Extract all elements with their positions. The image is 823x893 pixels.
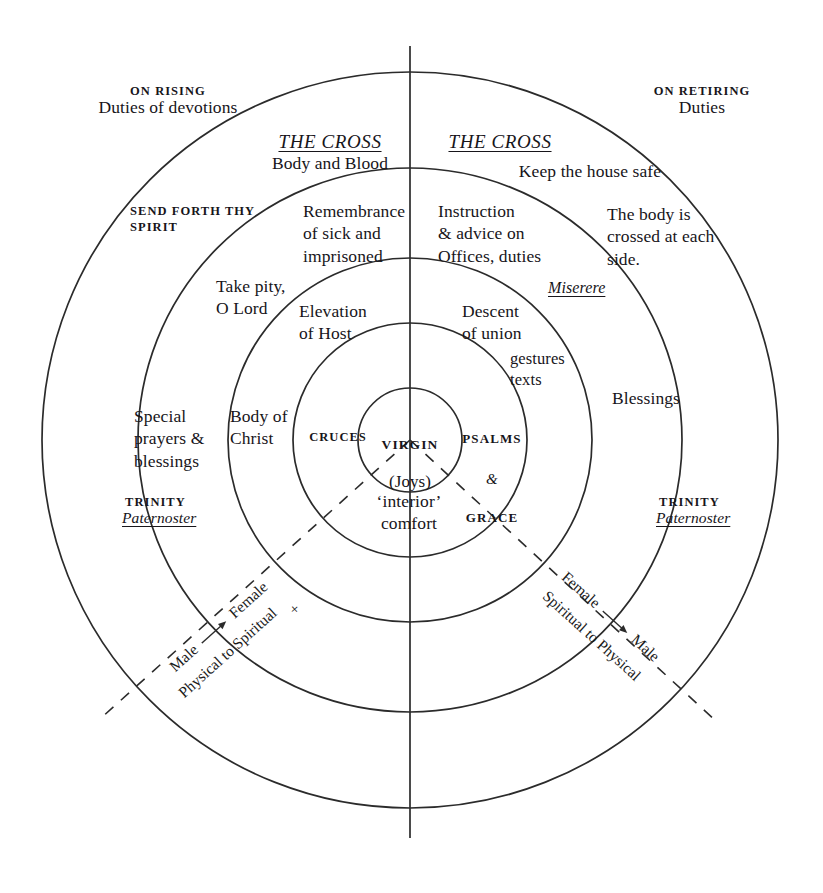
on-rising-sub: Duties of devotions <box>99 96 238 118</box>
body-crossed-label: The body is crossed at each side. <box>607 203 767 270</box>
remembrance-label: Remembrance of sick and imprisoned <box>303 200 421 267</box>
on-retiring-sub: Duties <box>679 96 725 118</box>
interior-comfort-label: ‘interior’ comfort <box>334 490 484 535</box>
virgin-label: VIRGIN <box>382 436 439 453</box>
psalms-line-1: PSALMS <box>462 431 521 448</box>
the-cross-right-title: THE CROSS <box>448 130 551 154</box>
elevation-of-host-label: Elevation of Host <box>299 300 409 345</box>
paternoster-left-label: Paternoster <box>122 508 196 528</box>
paternoster-right-label: Paternoster <box>656 508 730 528</box>
psalms-ampersand: & <box>462 470 521 489</box>
gestures-texts-label: gestures texts <box>510 348 620 390</box>
keep-house-safe-label: Keep the house safe <box>519 160 661 182</box>
devotional-circles-diagram: ON RISING Duties of devotions ON RETIRIN… <box>0 0 823 893</box>
cruces-label: CRUCES <box>309 429 367 445</box>
blessings-label: Blessings <box>612 387 680 409</box>
the-cross-left-sub: Body and Blood <box>272 152 388 174</box>
descent-of-union-label: Descent of union <box>462 300 572 345</box>
send-forth-thy-spirit-label: SEND FORTH THY SPIRIT <box>130 203 290 235</box>
the-cross-left-title: THE CROSS <box>278 130 381 154</box>
miserere-label: Miserere <box>548 278 605 298</box>
diagonal-axis-left <box>100 440 410 719</box>
instruction-label: Instruction & advice on Offices, duties <box>438 200 588 267</box>
